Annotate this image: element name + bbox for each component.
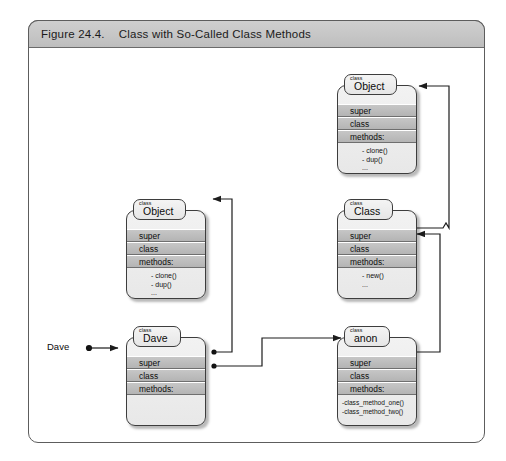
row-methods: methods: [338,255,416,268]
class-box-header: class Object [133,199,186,220]
row-methods: methods: [127,382,205,395]
connector-layer [0,0,506,461]
row-class: class [338,117,416,130]
row-methods: methods: [127,255,205,268]
class-box-body: super class methods: - clone() - dup() .… [337,85,417,174]
class-attribute-rows: super class methods: [338,229,416,268]
row-class: class [338,369,416,382]
class-box-header: class anon [344,326,390,347]
method-item: -class_method_two() [338,408,416,417]
method-list: - clone() - dup() ... [338,143,416,173]
row-class: class [127,369,205,382]
row-class: class [127,242,205,255]
class-box-body: super class methods: -class_method_one()… [337,337,417,426]
class-name-label: anon [350,333,381,344]
row-super: super [338,104,416,117]
row-methods: methods: [338,130,416,143]
class-attribute-rows: super class methods: [338,356,416,395]
method-item: - dup() [338,156,416,165]
class-box-object-left[interactable]: super class methods: - clone() - dup() .… [126,199,206,299]
class-name-label: Object [139,206,177,217]
connector-class-super-to-object-top [411,86,449,231]
method-list [127,395,205,399]
method-item: - clone() [127,272,205,281]
figure-stage: Figure 24.4. Class with So-Called Class … [0,0,506,461]
class-box-body: super class methods: - new() ... [337,210,417,299]
connector-instance-dave [86,345,118,351]
class-box-header: class Class [344,199,393,220]
connector-dave-class-to-anon [211,338,341,369]
row-super: super [127,356,205,369]
class-attribute-rows: super class methods: [338,104,416,143]
method-list: -class_method_one() -class_method_two() [338,395,416,416]
method-list: - new() ... [338,268,416,289]
method-item: -class_method_one() [338,399,416,408]
class-attribute-rows: super class methods: [127,356,205,395]
class-name-label: Dave [139,333,172,344]
class-name-label: Object [350,81,388,92]
connector-anon-super-route [414,234,440,352]
method-item: ... [127,289,205,298]
class-box-class[interactable]: super class methods: - new() ... class C… [337,199,417,299]
class-name-label: Class [350,206,384,217]
row-class: class [338,242,416,255]
method-item: ... [338,164,416,173]
class-box-body: super class methods: [126,337,206,426]
class-box-anon[interactable]: super class methods: -class_method_one()… [337,326,417,426]
class-box-header: class Dave [133,326,181,347]
method-item: - clone() [338,147,416,156]
method-list: - clone() - dup() ... [127,268,205,298]
method-item: ... [338,281,416,290]
instance-pointer-label: Dave [47,341,69,352]
class-box-object-top[interactable]: super class methods: - clone() - dup() .… [337,74,417,174]
class-attribute-rows: super class methods: [127,229,205,268]
method-item: - dup() [127,281,205,290]
connector-dave-super-to-object-left [211,199,232,355]
method-item: - new() [338,272,416,281]
row-super: super [127,229,205,242]
class-box-dave[interactable]: super class methods: class Dave [126,326,206,426]
row-super: super [338,356,416,369]
class-box-header: class Object [344,74,397,95]
row-methods: methods: [338,382,416,395]
class-box-body: super class methods: - clone() - dup() .… [126,210,206,299]
row-super: super [338,229,416,242]
